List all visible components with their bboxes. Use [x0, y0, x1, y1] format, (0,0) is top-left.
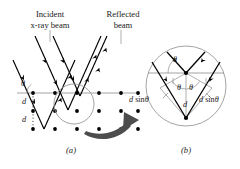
incident-beam-label-line1: Incident — [15, 10, 85, 19]
d-spacing-label-b: d — [183, 101, 187, 109]
angle-label-b-left: θ — [177, 84, 181, 92]
incident-beam-label: Incident x-ray beam — [15, 10, 85, 29]
panel-a — [13, 30, 140, 139]
reflected-beam-label: Reflected beam — [92, 10, 154, 29]
incident-beam-label-line2: x-ray beam — [15, 21, 85, 30]
reflected-beam-label-line2: beam — [92, 21, 154, 30]
path-left-angle: θ — [145, 95, 149, 104]
path-difference-label-right: d sinθ — [199, 96, 219, 104]
path-right-var: d — [199, 95, 203, 104]
zoom-highlight-circle — [54, 84, 94, 124]
reflected-beam-label-line1: Reflected — [92, 10, 154, 19]
angle-label-b-right: θ — [189, 84, 193, 92]
reflected-rays — [44, 36, 107, 129]
panel-b — [146, 46, 226, 126]
angle-label-a: θ — [21, 80, 25, 88]
caption-panel-a: (a) — [66, 146, 76, 155]
path-left-fn: sin — [135, 95, 145, 104]
path-right-angle: θ — [215, 95, 219, 104]
d-spacing-label-1: d — [22, 98, 26, 106]
path-right-fn: sin — [205, 95, 215, 104]
caption-panel-b: (b) — [181, 146, 191, 155]
angle-label-b-top: θ — [173, 56, 177, 64]
zoom-arrow-head — [123, 112, 139, 130]
path-left-var: d — [129, 95, 133, 104]
d-spacing-label-2: d — [22, 116, 26, 124]
path-difference-label-left: d sinθ — [129, 96, 149, 104]
